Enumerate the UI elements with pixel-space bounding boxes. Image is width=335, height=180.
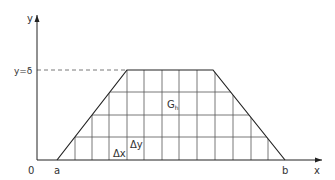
region-label: Gh [167, 99, 179, 111]
level-label: y=δ [14, 66, 33, 76]
grid [40, 60, 300, 160]
y-axis-label: y [27, 13, 33, 24]
origin-label: 0 [28, 165, 34, 176]
delta-y-label: Δy [130, 139, 143, 150]
x-axis-label: x [314, 165, 320, 176]
diagram-canvas: y x 0 a b y=δ Gh Δx Δy [0, 0, 335, 180]
point-b-label: b [282, 165, 288, 176]
point-a-label: a [54, 165, 60, 176]
delta-x-label: Δx [113, 148, 126, 159]
